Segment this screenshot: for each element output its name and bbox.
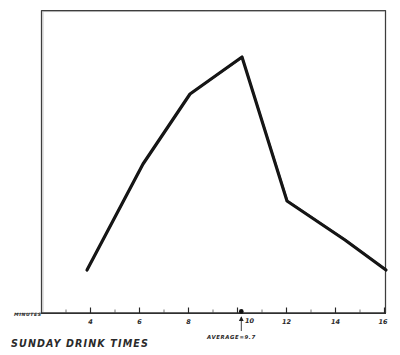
- data-series-sunday-drink-times: [87, 57, 386, 270]
- x-tick-label-16: 16: [378, 318, 388, 326]
- x-tick-label-8: 8: [186, 318, 191, 326]
- chart-figure: 4 6 8 10 12 14 16 MINUTES AVERAGE=9.7 SU…: [0, 0, 400, 355]
- x-tick-label-12: 12: [282, 318, 292, 326]
- frame-border: [42, 11, 386, 314]
- average-dot-marker: [239, 309, 244, 314]
- chart-title: SUNDAY DRINK TIMES: [11, 338, 149, 349]
- average-annotation-label: AVERAGE=9.7: [206, 334, 256, 340]
- x-axis-major-ticks: [91, 308, 385, 314]
- x-tick-label-4: 4: [88, 318, 93, 326]
- x-tick-label-10: 10: [245, 317, 255, 325]
- plot-frame: [42, 11, 386, 314]
- series-line: [87, 57, 386, 270]
- average-arrow-head: [239, 316, 244, 321]
- line-chart-canvas: 4 6 8 10 12 14 16 MINUTES AVERAGE=9.7 SU…: [0, 0, 400, 355]
- x-axis-label: MINUTES: [14, 312, 42, 317]
- x-tick-label-6: 6: [137, 318, 142, 326]
- x-tick-label-14: 14: [331, 318, 341, 326]
